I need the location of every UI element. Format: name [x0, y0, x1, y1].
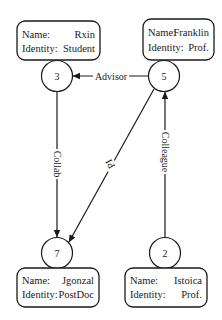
node-7-identity-value: PostDoc: [58, 289, 94, 300]
node-3-identity-key: Identity:: [22, 43, 58, 54]
node-7-identity-key: Identity:: [22, 289, 58, 300]
node-5-identity-key: Identity:: [148, 42, 184, 53]
edge-collab: Collab: [51, 91, 63, 237]
node-2-identity-value: Prof.: [181, 289, 202, 300]
node-7-property-box: [17, 268, 99, 307]
node-5-name-key: Name:: [148, 27, 176, 38]
node-5-property-box: [143, 19, 214, 60]
node-5-label: 5: [162, 71, 167, 82]
node-3-name-key: Name:: [22, 29, 50, 40]
node-7-group: 7 Name: Jgonzal Identity: PostDoc: [17, 238, 99, 308]
node-7-name-value: Jgonzal: [62, 275, 94, 286]
node-3-name-value: Rxin: [75, 29, 96, 40]
node-2-identity-key: Identity:: [130, 289, 166, 300]
node-5-name-value: Franklin: [173, 27, 209, 38]
node-2-property-box: [125, 268, 207, 307]
edge-advisor: Advisor: [73, 70, 149, 82]
node-7-label: 7: [55, 248, 60, 259]
property-graph-diagram: Advisor Collab PI Colleague Name: Rxin I…: [0, 0, 222, 320]
node-3-identity-value: Student: [63, 43, 95, 54]
node-3-label: 3: [55, 71, 60, 82]
edge-colleague: Colleague: [159, 92, 171, 238]
edge-pi: PI: [69, 89, 154, 242]
node-3-property-box: [17, 21, 100, 60]
node-2-label: 2: [163, 248, 168, 259]
node-2-name-key: Name:: [130, 275, 158, 286]
node-2-name-value: Istoica: [174, 275, 202, 286]
edge-colleague-label: Colleague: [160, 132, 171, 173]
edge-collab-label: Collab: [52, 151, 63, 178]
node-7-name-key: Name:: [22, 275, 50, 286]
node-5-identity-value: Prof.: [188, 42, 209, 53]
edge-advisor-label: Advisor: [95, 71, 128, 82]
node-3-group: Name: Rxin Identity: Student 3: [17, 21, 100, 92]
node-2-group: 2 Name: Istoica Identity: Prof.: [125, 238, 207, 308]
node-5-group: Name: Franklin Identity: Prof. 5: [143, 19, 214, 92]
